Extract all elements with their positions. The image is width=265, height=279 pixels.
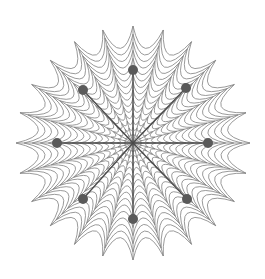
web-node-marker-S (128, 214, 138, 224)
web-node-marker-N (128, 65, 138, 75)
web-node-marker-SW (78, 194, 88, 204)
spider-web-figure: Spider Web (0, 0, 265, 279)
web-node-marker-E (203, 138, 213, 148)
web-node-marker-SE (182, 194, 192, 204)
web-node-marker-NW (78, 85, 88, 95)
web-node-marker-W (52, 138, 62, 148)
web-node-marker-NE (181, 83, 191, 93)
